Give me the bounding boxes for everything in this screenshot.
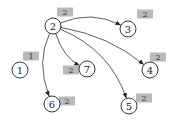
edge-2-to-6 — [43, 33, 50, 96]
edge-2-to-3 — [60, 17, 120, 25]
badge-node-7: 2 — [63, 66, 79, 76]
badge-value: 2 — [155, 53, 160, 62]
node-3[interactable]: 3 — [120, 21, 136, 37]
badge-node-4: 2 — [150, 53, 166, 63]
badge-value: 2 — [64, 97, 69, 106]
node-1[interactable]: 1 — [12, 62, 28, 78]
node-label: 1 — [17, 65, 23, 76]
node-label: 4 — [147, 65, 153, 76]
node-5[interactable]: 5 — [121, 98, 137, 114]
badge-node-6: 2 — [59, 97, 75, 107]
badge-value: 2 — [142, 10, 147, 19]
node-6[interactable]: 6 — [44, 96, 60, 112]
node-label: 5 — [126, 101, 132, 112]
node-label: 7 — [84, 64, 90, 75]
badge-value: 2 — [68, 66, 73, 75]
node-label: 2 — [50, 21, 56, 32]
edge-2-to-7 — [56, 34, 80, 66]
badge-value: 2 — [62, 8, 67, 17]
badge-node-3: 2 — [137, 10, 153, 20]
node-7[interactable]: 7 — [79, 61, 95, 77]
badge-value: 2 — [141, 94, 146, 103]
badge-node-5: 2 — [136, 94, 152, 104]
badges-layer: 1222222 — [23, 8, 166, 107]
node-label: 3 — [125, 24, 131, 35]
node-2[interactable]: 2 — [45, 18, 61, 34]
node-4[interactable]: 4 — [142, 62, 158, 78]
badge-node-2: 2 — [57, 8, 73, 18]
badge-value: 1 — [28, 52, 33, 61]
node-label: 6 — [49, 99, 55, 110]
graph-diagram: 1222222 1234567 — [0, 0, 176, 124]
badge-node-1: 1 — [23, 52, 39, 62]
